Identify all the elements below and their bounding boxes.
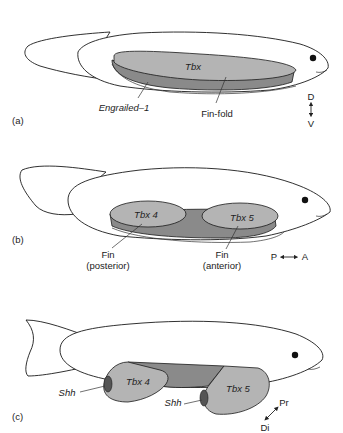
panel-label-a: (a)	[12, 115, 24, 126]
axis-proximal-label: Pr	[279, 397, 289, 408]
panel-label-b: (b)	[12, 234, 24, 245]
fin-fold-label: Fin-fold	[201, 108, 233, 119]
tbx5-label: Tbx 5	[226, 383, 250, 394]
tbx4-label: Tbx 4	[134, 209, 158, 220]
fin-anterior-label-2: (anterior)	[203, 260, 242, 271]
eye	[302, 197, 308, 203]
axis-distal-label: Di	[261, 422, 270, 433]
tbx5-label: Tbx 5	[230, 212, 254, 223]
fin-posterior-label-2: (posterior)	[86, 260, 129, 271]
diagonal-double-arrow-icon	[266, 408, 277, 419]
axis-anterior-label: A	[302, 251, 309, 262]
eye	[310, 55, 316, 61]
axis-dorsal-label: D	[308, 91, 315, 102]
engrailed-label: Engrailed–1	[99, 102, 150, 113]
panel-a: Tbx Engrailed–1 Fin-fold (a) D V	[12, 32, 328, 129]
axis-ventral-label: V	[308, 118, 315, 129]
fin-development-diagram: Tbx Engrailed–1 Fin-fold (a) D V Tbx 4 T…	[0, 0, 343, 433]
panel-b: Tbx 4 Tbx 5 Fin (posterior) Fin (anterio…	[12, 166, 330, 271]
tbx-label: Tbx	[185, 61, 202, 72]
fin-posterior-label-1: Fin	[101, 249, 114, 260]
shh-posterior-label: Shh	[59, 387, 76, 398]
panel-c: Tbx 4 Tbx 5 Shh Shh (c) Pr Di	[12, 320, 323, 433]
axis-posterior-label: P	[271, 251, 277, 262]
eye	[292, 352, 298, 358]
tbx4-label: Tbx 4	[126, 376, 150, 387]
panel-label-c: (c)	[12, 411, 23, 422]
shh-domain-anterior	[200, 390, 208, 406]
shh-anterior-label: Shh	[165, 397, 182, 408]
fin-anterior-label-1: Fin	[215, 249, 228, 260]
shh-domain-posterior	[104, 376, 112, 392]
